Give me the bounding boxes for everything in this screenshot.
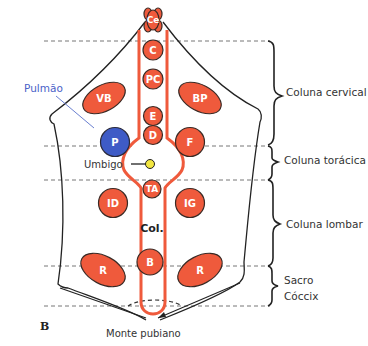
node-r-left: R [75, 246, 131, 293]
node-ce: Ce [144, 8, 162, 32]
node-p: P [101, 128, 130, 157]
node-ce-label: Ce [147, 15, 160, 25]
node-c-label: C [149, 45, 156, 56]
monte-pubiano-label: Monte pubiano [106, 328, 181, 339]
node-b-label: B [146, 257, 154, 268]
brace-cervical [268, 41, 282, 145]
pubic-arc [128, 300, 182, 306]
node-d-label: D [149, 130, 157, 141]
figure-label: B [40, 320, 49, 333]
umbilicus-marker [146, 160, 155, 169]
col-label: Col. [140, 222, 164, 235]
node-ig: IG [176, 189, 205, 218]
node-id-label: ID [107, 198, 119, 209]
region-label-toracica: Coluna torácica [284, 154, 366, 166]
node-vb-label: VB [96, 93, 111, 104]
node-e: E [144, 107, 163, 126]
brace-thoracic [268, 146, 278, 180]
node-d: D [144, 126, 163, 145]
abdominal-reflex-map-diagram: Ce C PC E D TA B VB BP P F [0, 0, 368, 346]
node-r-right-label: R [196, 265, 204, 276]
node-e-label: E [150, 111, 157, 122]
brace-sacral [268, 266, 278, 306]
node-pc-label: PC [146, 74, 161, 85]
node-id: ID [99, 189, 128, 218]
node-ta: TA [143, 180, 161, 198]
region-label-cervical: Coluna cervical [286, 86, 367, 98]
brace-lumbar [268, 180, 280, 266]
node-r-right: R [172, 246, 228, 293]
node-ta-label: TA [146, 184, 158, 194]
node-bp-label: BP [193, 93, 208, 104]
region-label-sacro: Sacro [284, 274, 313, 286]
umbigo-label: Umbigo [84, 159, 123, 170]
node-f-label: F [187, 137, 194, 148]
pubic-arrow-right [158, 283, 240, 318]
node-vb: VB [78, 76, 131, 121]
node-c: C [143, 40, 163, 60]
node-pc: PC [143, 69, 163, 89]
node-b: B [137, 249, 163, 275]
node-ig-label: IG [184, 198, 196, 209]
region-label-lombar: Coluna lombar [286, 218, 363, 230]
region-label-coccix: Cóccix [284, 290, 318, 302]
node-f: F [176, 128, 205, 157]
node-r-left-label: R [99, 265, 107, 276]
node-p-label: P [111, 137, 118, 148]
pubic-arrow-left [60, 288, 146, 318]
pulmao-label: Pulmão [24, 82, 63, 94]
